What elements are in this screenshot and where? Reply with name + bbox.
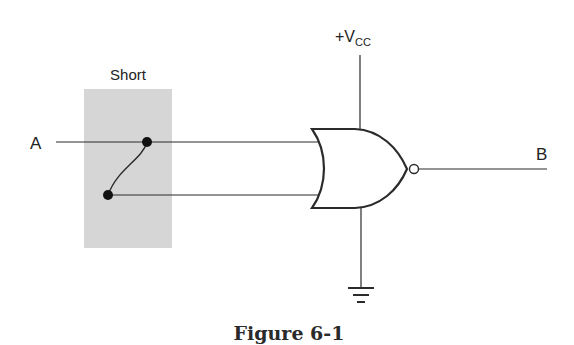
circuit-diagram: Short A +VCC B Figure 6-1 [0,0,574,345]
short-box [84,89,172,248]
nor-gate-body [312,129,407,208]
figure-caption: Figure 6-1 [234,322,345,344]
junction-dot-top [142,137,152,147]
ground-icon [348,288,374,302]
output-b-label: B [536,145,547,164]
nor-bubble [410,165,419,174]
vcc-label: +VCC [335,28,371,48]
junction-dot-bottom [103,190,113,200]
short-label: Short [110,66,147,83]
input-a-label: A [30,134,42,153]
